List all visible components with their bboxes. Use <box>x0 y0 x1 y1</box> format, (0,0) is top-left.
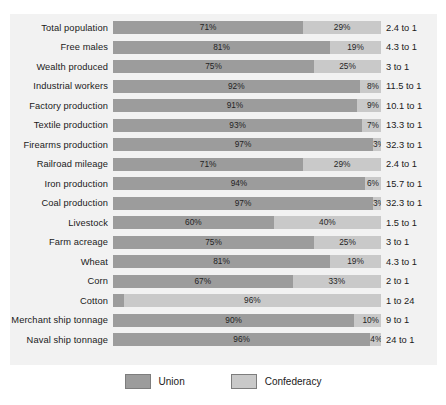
value-text: 25% <box>339 61 356 71</box>
union-segment: 71% <box>113 158 303 171</box>
stacked-bar: 4%96% <box>113 294 381 307</box>
value-text: 8% <box>367 81 379 91</box>
union-segment: 94% <box>113 177 365 190</box>
ratio-label: 24 to 1 <box>381 335 414 345</box>
chart-row: Naval ship tonnage96%4%24 to 1 <box>10 330 437 350</box>
value-text: 60% <box>185 217 202 227</box>
value-text: 19% <box>347 42 364 52</box>
stacked-bar: 97%3% <box>113 197 381 210</box>
row-label: Naval ship tonnage <box>10 335 113 345</box>
row-label: Merchant ship tonnage <box>10 315 113 325</box>
row-label: Livestock <box>10 218 113 228</box>
union-value-label: 75% <box>113 60 314 73</box>
chart-row: Coal production97%3%32.3 to 1 <box>10 194 437 214</box>
confederacy-value-label: 19% <box>330 41 381 54</box>
value-text: 75% <box>205 237 222 247</box>
ratio-label: 15.7 to 1 <box>381 179 422 189</box>
ratio-label: 2.4 to 1 <box>381 23 417 33</box>
chart-row: Textile production93%7%13.3 to 1 <box>10 116 437 136</box>
value-text: 93% <box>229 120 246 130</box>
chart-row: Factory production91%9%10.1 to 1 <box>10 96 437 116</box>
union-value-label: 97% <box>113 138 373 151</box>
value-text: 7% <box>367 120 379 130</box>
union-value-label: 96% <box>113 333 370 346</box>
value-text: 3% <box>373 139 381 149</box>
legend-swatch-union <box>125 374 151 389</box>
confederacy-value-label: 25% <box>314 60 381 73</box>
confederacy-value-label: 3% <box>373 138 381 151</box>
chart-row: Wheat81%19%4.3 to 1 <box>10 252 437 272</box>
confederacy-segment: 10% <box>354 314 381 327</box>
chart-panel: Total population71%29%2.4 to 1Free males… <box>10 14 437 365</box>
union-value-label: 97% <box>113 197 373 210</box>
value-text: 94% <box>231 178 248 188</box>
stacked-bar: 93%7% <box>113 119 381 132</box>
union-value-label: 71% <box>113 21 303 34</box>
confederacy-segment: 29% <box>303 21 381 34</box>
value-text: 81% <box>213 42 230 52</box>
union-value-label: 94% <box>113 177 365 190</box>
row-label: Firearms production <box>10 140 113 150</box>
confederacy-value-label: 6% <box>365 177 381 190</box>
confederacy-value-label: 4% <box>370 333 381 346</box>
confederacy-segment: 9% <box>357 99 381 112</box>
stacked-bar: 60%40% <box>113 216 381 229</box>
union-segment: 92% <box>113 80 360 93</box>
union-value-label: 67% <box>113 275 293 288</box>
stacked-bar: 81%19% <box>113 41 381 54</box>
ratio-label: 2 to 1 <box>381 276 409 286</box>
value-text: 96% <box>244 295 261 305</box>
row-label: Factory production <box>10 101 113 111</box>
confederacy-value-label: 96% <box>124 294 381 307</box>
union-segment: 93% <box>113 119 362 132</box>
chart-legend: UnionConfederacy <box>0 374 446 389</box>
confederacy-segment: 8% <box>360 80 381 93</box>
stacked-bar: 75%25% <box>113 236 381 249</box>
value-text: 29% <box>334 159 351 169</box>
value-text: 67% <box>194 276 211 286</box>
value-text: 92% <box>228 81 245 91</box>
ratio-label: 3 to 1 <box>381 62 409 72</box>
chart-row: Iron production94%6%15.7 to 1 <box>10 174 437 194</box>
ratio-label: 11.5 to 1 <box>381 81 422 91</box>
union-segment: 96% <box>113 333 370 346</box>
stacked-bar: 91%9% <box>113 99 381 112</box>
union-segment: 97% <box>113 138 373 151</box>
value-text: 81% <box>213 256 230 266</box>
row-label: Textile production <box>10 120 113 130</box>
legend-item: Confederacy <box>231 374 322 389</box>
row-label: Free males <box>10 42 113 52</box>
chart-row: Free males81%19%4.3 to 1 <box>10 38 437 58</box>
ratio-label: 32.3 to 1 <box>381 198 422 208</box>
chart-rows: Total population71%29%2.4 to 1Free males… <box>10 18 437 350</box>
stacked-bar: 71%29% <box>113 21 381 34</box>
chart-row: Industrial workers92%8%11.5 to 1 <box>10 77 437 97</box>
union-segment: 71% <box>113 21 303 34</box>
stacked-bar: 96%4% <box>113 333 381 346</box>
row-label: Wealth produced <box>10 62 113 72</box>
value-text: 75% <box>205 61 222 71</box>
row-label: Industrial workers <box>10 81 113 91</box>
row-label: Iron production <box>10 179 113 189</box>
ratio-label: 4.3 to 1 <box>381 42 417 52</box>
union-value-label: 91% <box>113 99 357 112</box>
confederacy-value-label: 7% <box>362 119 381 132</box>
ratio-label: 1 to 24 <box>381 296 414 306</box>
ratio-label: 9 to 1 <box>381 315 409 325</box>
confederacy-segment: 96% <box>124 294 381 307</box>
ratio-label: 10.1 to 1 <box>381 101 422 111</box>
ratio-label: 4.3 to 1 <box>381 257 417 267</box>
confederacy-value-label: 29% <box>303 21 381 34</box>
stacked-bar: 71%29% <box>113 158 381 171</box>
confederacy-value-label: 25% <box>314 236 381 249</box>
confederacy-segment: 40% <box>274 216 381 229</box>
union-segment: 75% <box>113 60 314 73</box>
confederacy-segment: 25% <box>314 60 381 73</box>
confederacy-value-label: 8% <box>360 80 381 93</box>
row-label: Coal production <box>10 198 113 208</box>
value-text: 97% <box>235 139 252 149</box>
chart-row: Firearms production97%3%32.3 to 1 <box>10 135 437 155</box>
confederacy-value-label: 40% <box>274 216 381 229</box>
confederacy-value-label: 9% <box>357 99 381 112</box>
legend-item: Union <box>125 374 185 389</box>
